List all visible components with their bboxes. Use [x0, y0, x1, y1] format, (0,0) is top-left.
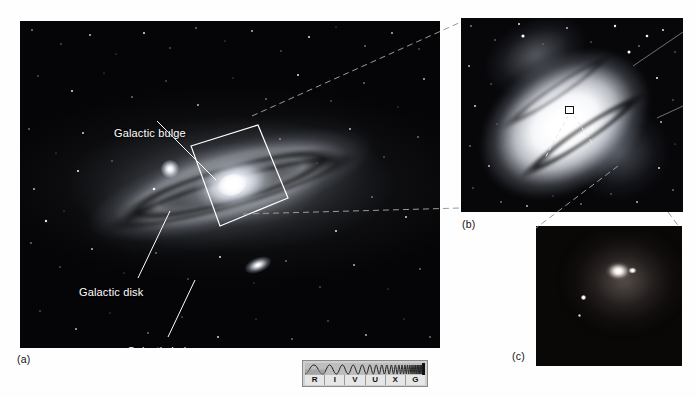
spectrum-band-I[interactable]: I — [325, 375, 345, 385]
spectrum-band-G[interactable]: G — [406, 375, 425, 385]
caption-panel-a: (a) — [17, 353, 30, 365]
caption-panel-c: (c) — [512, 350, 525, 362]
spectrum-band-U[interactable]: U — [366, 375, 386, 385]
caption-panel-b: (b) — [462, 218, 475, 230]
nucleus-halo-glow-graphic — [536, 231, 682, 361]
annotation-galactic-halo: Galactic halo — [127, 345, 193, 348]
electromagnetic-spectrum-indicator[interactable]: R I V U X G — [302, 360, 428, 387]
spectrum-band-X[interactable]: X — [386, 375, 406, 385]
spectrum-band-V[interactable]: V — [345, 375, 365, 385]
panel-b-bulge-closeup[interactable] — [461, 18, 683, 212]
spectrum-band-labels: R I V U X G — [305, 375, 425, 385]
annotation-galactic-bulge: Galactic bulge — [114, 127, 186, 139]
annotation-galactic-disk: Galactic disk — [79, 286, 143, 298]
companion-galaxy-upper-graphic — [161, 160, 179, 178]
nucleus-field-marker-box — [565, 106, 574, 114]
foreground-star-primary — [581, 295, 586, 300]
spectrum-band-R[interactable]: R — [305, 375, 325, 385]
panel-a-wide-field-galaxy[interactable]: Galactic bulge Galactic disk Galactic ha… — [20, 21, 440, 348]
figure-canvas: Galactic bulge Galactic disk Galactic ha… — [0, 0, 696, 397]
panel-c-nucleus-closeup[interactable] — [536, 226, 682, 366]
nucleus-bright-knot-graphic — [628, 267, 637, 274]
